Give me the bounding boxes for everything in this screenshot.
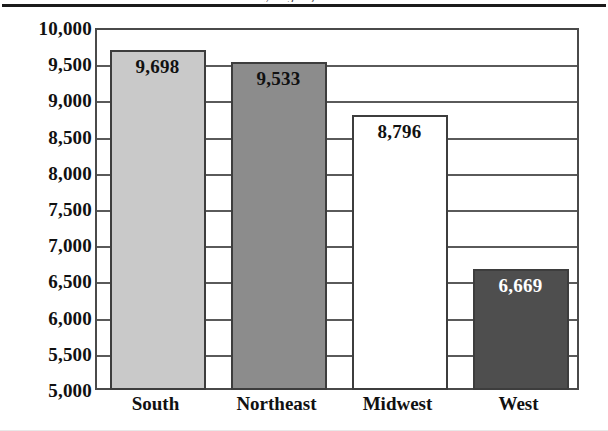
bar-midwest: 8,796	[352, 115, 448, 390]
y-axis-tick-label: 5,500	[0, 345, 92, 364]
y-axis-tick-label: 7,500	[0, 200, 92, 219]
y-axis-tick-label: 10,000	[0, 19, 92, 38]
y-axis-tick-label: 6,000	[0, 309, 92, 328]
bar-value-label: 6,669	[475, 276, 567, 295]
bar-south: 9,698	[110, 50, 206, 390]
bar-value-label: 9,533	[233, 69, 325, 88]
bar-value-label: 8,796	[354, 122, 446, 141]
y-axis-tick-label: 9,500	[0, 55, 92, 74]
x-axis-tick-labels: SouthNortheastMidwestWest	[95, 394, 579, 426]
y-axis-tick-label: 7,000	[0, 236, 92, 255]
y-axis-tick-label: 8,000	[0, 164, 92, 183]
x-axis-tick-label: West	[439, 394, 599, 413]
bar-chart-figure: 10,0009,5009,0008,5008,0007,5007,0006,50…	[0, 0, 608, 431]
bar-value-label: 9,698	[112, 57, 204, 76]
bar-west: 6,669	[473, 269, 569, 390]
plot-area: 9,6989,5338,7966,669	[95, 28, 579, 390]
y-axis-tick-label: 6,500	[0, 272, 92, 291]
y-axis-tick-labels: 10,0009,5009,0008,5008,0007,5007,0006,50…	[0, 28, 92, 390]
bar-northeast: 9,533	[231, 62, 327, 390]
y-axis-tick-label: 9,000	[0, 91, 92, 110]
y-axis-tick-label: 8,500	[0, 128, 92, 147]
